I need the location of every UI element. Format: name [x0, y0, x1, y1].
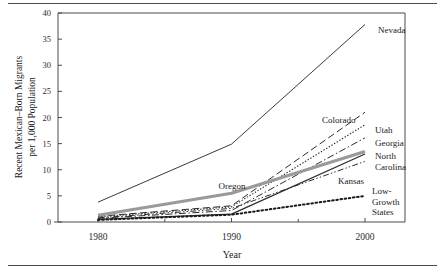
x-tick-label: 2000 — [355, 232, 374, 242]
series-line-utah — [98, 125, 365, 217]
y-tick-label: 35 — [43, 34, 52, 44]
y-tick-label: 40 — [43, 8, 52, 18]
top-horizontal-rule — [8, 3, 437, 4]
y-tick-label: 25 — [43, 86, 52, 96]
figure-container: 0510152025303540 198019902000 NevadaColo… — [0, 0, 445, 276]
series-label-low-growth-states: Low- — [372, 186, 392, 196]
y-axis-title-line2: per 1,000 Population — [27, 77, 37, 157]
y-tick-label: 5 — [47, 191, 51, 201]
y-axis-tick-labels: 0510152025303540 — [43, 8, 52, 227]
series-label-oregon: Oregon — [219, 181, 246, 191]
y-tick-label: 15 — [43, 139, 52, 149]
series-label-kansas: Kansas — [338, 176, 364, 186]
y-tick-label: 20 — [43, 113, 52, 123]
y-tick-label: 0 — [47, 217, 51, 227]
series-label-north-carolina: North — [375, 151, 396, 161]
y-axis-title-line1: Recent Mexican–Born Migrants — [14, 55, 24, 178]
y-tick-label: 10 — [43, 165, 52, 175]
series-label-north-carolina: Carolina — [375, 162, 406, 172]
line-chart: 0510152025303540 198019902000 NevadaColo… — [0, 0, 445, 276]
series-label-nevada: Nevada — [378, 25, 405, 35]
series-label-georgia: Georgia — [375, 138, 404, 148]
y-tick-label: 30 — [43, 60, 52, 70]
series-label-utah: Utah — [375, 125, 393, 135]
x-axis-tick-labels: 198019902000 — [89, 232, 375, 242]
bottom-horizontal-rule — [8, 265, 437, 266]
axis-ticks — [58, 13, 365, 222]
series-label-low-growth-states: States — [372, 207, 394, 217]
x-tick-label: 1990 — [222, 232, 241, 242]
x-axis-title: Year — [223, 249, 242, 260]
series-label-low-growth-states: Growth — [372, 197, 400, 207]
x-tick-label: 1980 — [89, 232, 108, 242]
series-label-colorado: Colorado — [322, 115, 356, 125]
